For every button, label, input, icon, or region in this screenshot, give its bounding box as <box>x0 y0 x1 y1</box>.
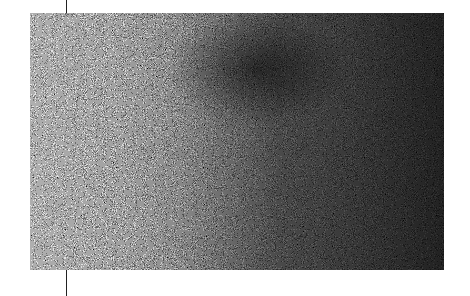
vertical-line-top <box>66 0 67 14</box>
image-canvas: Grainy monochrome noise texture, lighter… <box>0 0 470 296</box>
noise-texture <box>30 13 444 270</box>
noise-texture-panel <box>30 13 444 270</box>
vertical-line-bottom <box>66 270 67 296</box>
